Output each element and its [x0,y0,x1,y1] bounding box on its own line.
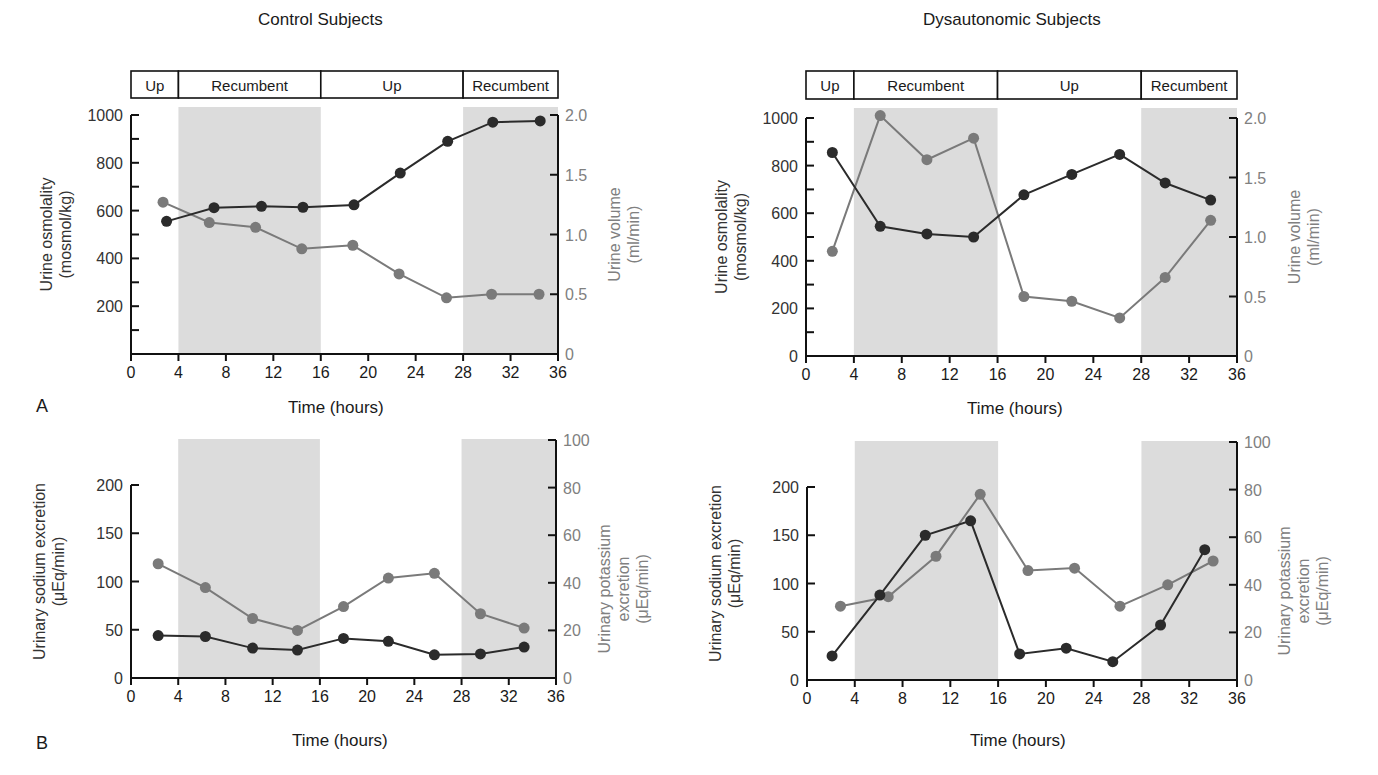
x-tick-label: 0 [127,688,136,705]
right-y-tick-label: 100 [563,432,590,449]
data-point [292,625,303,636]
x-tick-label: 4 [174,688,183,705]
right-y-axis-title: Urine volume(ml/min) [606,187,642,281]
x-tick-label: 28 [1132,366,1150,383]
posture-bar: UpRecumbentUpRecumbent [131,71,558,98]
y-tick-label: 400 [96,250,123,267]
y-tick-label: 0 [790,672,799,689]
x-tick-label: 8 [221,688,230,705]
data-point [1066,296,1077,307]
right-y-tick-label: 1.5 [565,167,587,184]
data-point [395,168,406,179]
y-tick-label: 50 [105,622,123,639]
right-y-tick-label: 20 [1244,624,1262,641]
x-tick-label: 28 [454,364,472,381]
data-point [1114,149,1125,160]
data-point [292,645,303,656]
chart-A-dysautonomic: UpRecumbentUpRecumbent020040060080010000… [713,71,1322,383]
data-point [475,648,486,659]
data-point [394,268,405,279]
data-point [1022,565,1033,576]
y-tick-label: 150 [96,525,123,542]
data-point [1208,556,1219,567]
y-tick-label: 800 [771,158,798,175]
data-point [296,243,307,254]
data-point [297,202,308,213]
right-y-axis-title: Urinary potassiumexcretion(μEq/min) [1276,527,1331,656]
data-point [1014,648,1025,659]
y-tick-label: 800 [96,155,123,172]
recumbent-shade [855,441,998,680]
right-y-tick-label: 0 [563,670,572,687]
y-tick-label: 200 [96,298,123,315]
data-point [827,650,838,661]
right-y-tick-label: 60 [563,527,581,544]
x-tick-label: 8 [221,364,230,381]
right-y-tick-label: 2.0 [1244,110,1266,127]
right-y-tick-label: 2.0 [565,107,587,124]
data-point [1066,169,1077,180]
x-tick-label: 4 [850,690,859,707]
right-y-axis-title: Urine volume(ml/min) [1286,190,1322,284]
left-y-axis-title: Urine osmolality(mosmol/kg) [713,180,749,294]
x-tick-label: 4 [849,366,858,383]
posture-label: Up [820,77,839,94]
right-y-tick-label: 1.5 [1244,170,1266,187]
right-y-tick-label: 0 [1244,672,1253,689]
y-tick-label: 100 [96,574,123,591]
right-y-tick-label: 40 [563,575,581,592]
x-tick-label: 28 [1133,690,1151,707]
left-y-axis-title: Urinary sodium excretion(μEq/min) [707,485,743,662]
data-point [153,630,164,641]
y-tick-label: 400 [771,253,798,270]
y-tick-label: 200 [771,300,798,317]
right-y-tick-label: 100 [1244,434,1271,451]
y-tick-label: 200 [772,479,799,496]
figure-canvas: UpRecumbentUpRecumbent200400600800100000… [0,0,1378,775]
data-point [920,530,931,541]
recumbent-shade [463,107,558,354]
data-point [875,221,886,232]
right-y-tick-label: 0.5 [1244,289,1266,306]
x-tick-label: 16 [311,688,329,705]
x-tick-label: 24 [1085,690,1103,707]
x-tick-label: 36 [1228,690,1246,707]
data-point [535,115,546,126]
data-point [442,136,453,147]
data-point [158,197,169,208]
data-point [534,289,545,300]
column-title-dysautonomic: Dysautonomic Subjects [923,10,1101,30]
chart-B-control: 0501001502000204060801000481216202428323… [31,432,651,705]
x-tick-label: 32 [1180,366,1198,383]
posture-label: Up [382,77,401,94]
left-y-axis-title: Urinary sodium excretion(μEq/min) [31,483,67,660]
y-tick-label: 0 [114,670,123,687]
right-y-axis-title: Urinary potassiumexcretion(μEq/min) [596,525,651,654]
data-point [1114,312,1125,323]
posture-label: Recumbent [1151,77,1229,94]
data-point [875,110,886,121]
data-point [338,601,349,612]
x-tick-label: 0 [127,364,136,381]
posture-label: Recumbent [472,77,550,94]
panel-letter-b: B [36,733,48,754]
right-y-tick-label: 0 [1244,348,1253,365]
x-tick-label: 16 [989,366,1007,383]
data-point [968,133,979,144]
data-point [835,601,846,612]
data-point [429,568,440,579]
x-axis-label-b-control: Time (hours) [292,731,388,751]
column-title-control: Control Subjects [258,10,383,30]
x-axis-label-a-control: Time (hours) [288,398,384,418]
x-tick-label: 0 [803,690,812,707]
x-tick-label: 8 [897,366,906,383]
x-tick-label: 32 [500,688,518,705]
recumbent-shade [178,107,320,354]
data-point [519,623,530,634]
data-point [1160,272,1171,283]
data-point [1018,189,1029,200]
x-tick-label: 32 [502,364,520,381]
posture-label: Up [145,77,164,94]
data-point [1162,579,1173,590]
x-tick-label: 20 [1037,690,1055,707]
